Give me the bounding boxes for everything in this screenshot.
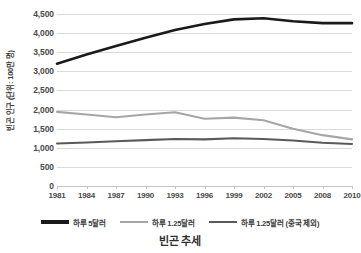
x-axis-tick-label: 1987 (108, 191, 125, 200)
x-axis-tick-mark (116, 186, 117, 189)
x-axis-tick-label: 1993 (167, 191, 184, 200)
series-lines (57, 14, 352, 186)
y-axis-title-text: 빈곤 인구 (단위: 100만 명) (4, 50, 15, 131)
x-axis-tick-mark (146, 186, 147, 189)
legend-label: 하루 5달러 (73, 217, 106, 228)
chart-title: 빈곤 추세 (0, 232, 360, 248)
plot-area (57, 14, 352, 186)
x-axis-tick-mark (323, 186, 324, 189)
x-axis-tick-mark (352, 186, 353, 189)
series-line (57, 18, 352, 63)
x-axis-tick-mark (87, 186, 88, 189)
legend-swatch (120, 221, 148, 224)
x-axis-tick-labels: 1981198419871990199319961999200220052008… (57, 186, 352, 204)
x-axis-tick-label: 2008 (314, 191, 331, 200)
y-axis-tick-labels: 05001,0001,5002,0002,5003,0003,5004,0004… (14, 14, 54, 186)
legend-swatch (41, 220, 69, 223)
x-axis-tick-mark (264, 186, 265, 189)
series-line (57, 138, 352, 144)
y-axis-tick-label: 0 (14, 181, 54, 191)
x-axis-tick-label: 2010 (344, 191, 361, 200)
y-axis-tick-label: 1,000 (14, 143, 54, 153)
x-axis-tick-label: 1981 (49, 191, 66, 200)
legend-label: 하루 1.25달러 (152, 217, 195, 228)
y-axis-tick-label: 3,500 (14, 47, 54, 57)
y-axis-tick-label: 2,500 (14, 85, 54, 95)
y-axis-tick-label: 3,000 (14, 66, 54, 76)
x-axis-tick-mark (234, 186, 235, 189)
x-axis-tick-label: 1984 (78, 191, 95, 200)
x-axis-tick-label: 2005 (285, 191, 302, 200)
legend-label: 하루 1.25달러 (중국 제외) (241, 217, 319, 228)
legend-item[interactable]: 하루 1.25달러 (중국 제외) (209, 217, 319, 228)
x-axis-tick-label: 1996 (196, 191, 213, 200)
y-axis-tick-label: 2,000 (14, 105, 54, 115)
y-axis-tick-label: 500 (14, 162, 54, 172)
x-axis-tick-mark (175, 186, 176, 189)
x-axis-tick-label: 1999 (226, 191, 243, 200)
x-axis-tick-mark (293, 186, 294, 189)
y-axis-tick-label: 4,000 (14, 28, 54, 38)
y-axis-tick-label: 1,500 (14, 124, 54, 134)
x-axis-tick-label: 1990 (137, 191, 154, 200)
series-line (57, 112, 352, 140)
legend: 하루 5달러하루 1.25달러하루 1.25달러 (중국 제외) (0, 212, 360, 232)
y-axis-tick-label: 4,500 (14, 9, 54, 19)
x-axis-tick-label: 2002 (255, 191, 272, 200)
legend-swatch (209, 221, 237, 224)
legend-item[interactable]: 하루 1.25달러 (120, 217, 195, 228)
x-axis-tick-mark (205, 186, 206, 189)
legend-item[interactable]: 하루 5달러 (41, 217, 106, 228)
x-axis-tick-mark (57, 186, 58, 189)
